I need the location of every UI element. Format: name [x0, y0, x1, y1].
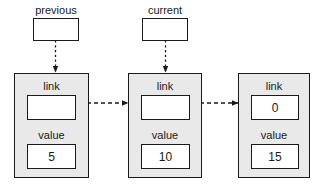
linked-list-diagram: previous current link value 5 link value… — [0, 0, 323, 185]
node-1[interactable]: link value 5 — [14, 73, 89, 178]
pointer-box-previous[interactable] — [33, 18, 79, 41]
node-2-link-box[interactable] — [141, 95, 190, 120]
node-1-link-box[interactable] — [27, 95, 76, 120]
node-1-value-box[interactable]: 5 — [27, 144, 76, 169]
node-3-value-label: value — [239, 129, 309, 141]
node-3[interactable]: link 0 value 15 — [238, 73, 310, 178]
node-2-value-box[interactable]: 10 — [141, 144, 190, 169]
pointer-box-current[interactable] — [142, 18, 188, 41]
node-2-value-label: value — [129, 129, 201, 141]
node-3-value-box[interactable]: 15 — [251, 144, 299, 169]
node-3-link-box[interactable]: 0 — [251, 95, 299, 120]
pointer-label-current: current — [142, 4, 188, 16]
node-2[interactable]: link value 10 — [128, 73, 202, 178]
pointer-label-previous: previous — [33, 4, 79, 16]
node-3-link-label: link — [239, 80, 309, 92]
node-2-link-label: link — [129, 80, 201, 92]
node-1-value-label: value — [15, 129, 88, 141]
node-1-link-label: link — [15, 80, 88, 92]
